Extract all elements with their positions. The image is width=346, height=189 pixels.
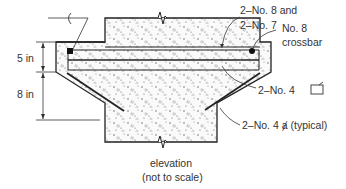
- corner-bar-right: [249, 48, 255, 54]
- centerline-icon: [69, 13, 72, 24]
- callout-hook-bars-text: 2–No. 4: [242, 119, 279, 131]
- callout-crossbar-line2: crossbar: [282, 36, 322, 48]
- corner-bar-left: [67, 48, 73, 54]
- dim-label-8in: 8 in: [17, 88, 34, 100]
- concrete-outline: [56, 18, 271, 142]
- callout-crossbar-line1: No. 8: [282, 22, 307, 34]
- callout-top-bars-line1: 2–No. 8 and: [240, 4, 297, 16]
- closed-stirrup-icon: [311, 82, 323, 94]
- callout-hook-bars-suffix: (typical): [290, 119, 327, 131]
- hook-bar-icon: ⱥ: [282, 119, 288, 131]
- callout-stirrup: 2–No. 4: [258, 84, 295, 96]
- callout-hook-bars: 2–No. 4 ⱥ (typical): [242, 119, 327, 131]
- caption-line2: (not to scale): [142, 171, 203, 183]
- caption-line1: elevation: [150, 157, 192, 169]
- dim-label-5in: 5 in: [17, 52, 34, 64]
- callout-top-bars-line2: 2–No. 7: [240, 19, 277, 31]
